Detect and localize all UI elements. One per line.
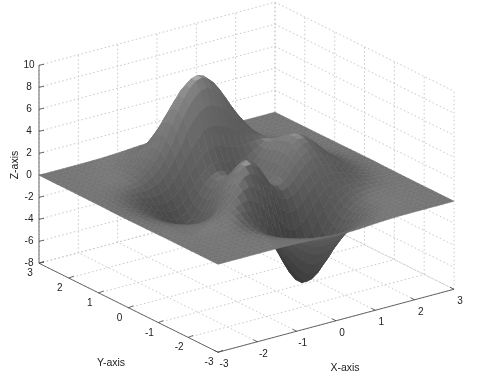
y-tick-label: 1	[87, 298, 93, 308]
z-tick-label: 0	[26, 170, 32, 180]
y-tick-label: -1	[145, 328, 154, 338]
x-tick-label: 2	[418, 307, 424, 317]
z-tick-label: 2	[26, 148, 32, 158]
y-tick-label: -2	[175, 342, 184, 352]
y-tick-label: 2	[57, 283, 63, 293]
y-tick-label: 3	[27, 268, 33, 278]
y-tick-label: 0	[117, 313, 123, 323]
z-tick-label: -6	[25, 236, 34, 246]
z-tick-label: -2	[25, 192, 34, 202]
y-tick-label: -3	[205, 357, 214, 367]
z-tick-label: 6	[26, 104, 32, 114]
z-tick-label: 4	[26, 126, 32, 136]
x-tick-label: 1	[379, 317, 385, 327]
surface-plot-figure: -8-6-4-20246810-3-2-10123-3-2-10123 X-ax…	[0, 0, 478, 376]
z-tick-label: 8	[26, 82, 32, 92]
surface-plot-canvas[interactable]	[0, 0, 478, 376]
x-tick-label: 3	[457, 296, 463, 306]
z-axis-label: Z-axis	[8, 151, 20, 180]
x-tick-label: -2	[259, 349, 268, 359]
z-tick-label: 10	[23, 60, 34, 70]
x-tick-label: 0	[339, 328, 345, 338]
x-tick-label: -3	[220, 359, 229, 369]
y-axis-label: Y-axis	[97, 356, 125, 368]
x-axis-label: X-axis	[330, 361, 359, 373]
x-tick-label: -1	[298, 338, 307, 348]
z-tick-label: -4	[25, 214, 34, 224]
